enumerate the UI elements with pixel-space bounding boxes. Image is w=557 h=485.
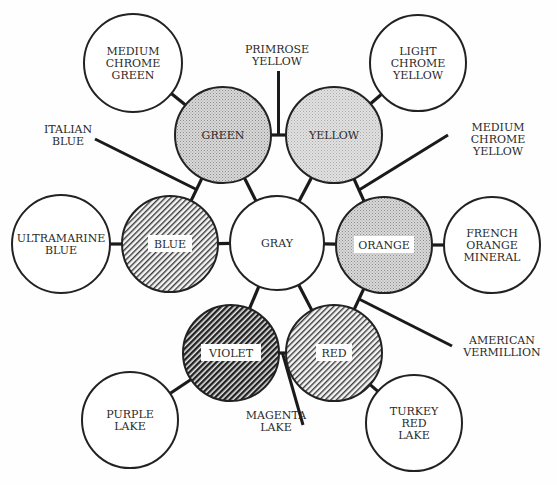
- connector-gray-red: [299, 285, 312, 311]
- connector-gray-green: [244, 178, 256, 201]
- color-wheel-diagram: PRIMROSEYELLOWMEDIUMCHROMEYELLOWAMERICAN…: [0, 0, 557, 485]
- label-american-vermillion: AMERICANVERMILLION: [462, 334, 541, 359]
- connector-yellow-light-chrome-yellow: [370, 94, 381, 104]
- connector-gray-yellow: [299, 177, 312, 201]
- label-french-orange-mineral: FRENCHORANGEMINERAL: [464, 227, 521, 264]
- diagram-canvas: PRIMROSEYELLOWMEDIUMCHROMEYELLOWAMERICAN…: [0, 0, 557, 485]
- label-red: RED: [321, 347, 346, 360]
- connector-red-turkey-red-lake: [370, 385, 378, 392]
- label-primrose-yellow: PRIMROSEYELLOW: [245, 43, 309, 68]
- connector-violet-purple-lake: [170, 380, 191, 394]
- label-orange: ORANGE: [358, 239, 410, 252]
- label-italian-blue: ITALIANBLUE: [44, 123, 93, 148]
- label-yellow: YELLOW: [308, 129, 360, 142]
- label-gray: GRAY: [261, 237, 294, 250]
- connector-green-medium-chrome-green: [171, 94, 185, 105]
- label-medium-chrome-yellow: MEDIUMCHROMEYELLOW: [471, 121, 526, 158]
- connector-gray-violet: [250, 286, 259, 308]
- label-blue: BLUE: [154, 238, 186, 251]
- label-green: GREEN: [202, 129, 245, 142]
- label-medium-chrome-green: MEDIUMCHROMEGREEN: [106, 45, 161, 82]
- label-violet: VIOLET: [208, 347, 254, 360]
- label-magenta-lake: MAGENTALAKE: [246, 409, 307, 434]
